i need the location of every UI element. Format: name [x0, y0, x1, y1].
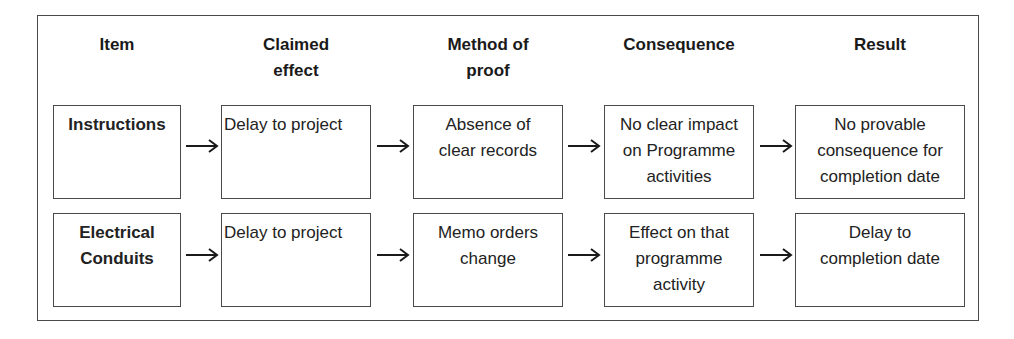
- row2-method-of-proof-box: Memo orders change: [413, 213, 563, 307]
- row2-consequence-line1: Effect on that: [605, 220, 753, 246]
- row2-method-line2: change: [414, 246, 562, 272]
- row2-result-box: Delay to completion date: [795, 213, 965, 307]
- row2-method-line1: Memo orders: [414, 220, 562, 246]
- header-result: Result: [795, 32, 965, 58]
- right-arrow-icon: [376, 248, 410, 262]
- right-arrow-icon: [567, 139, 601, 153]
- row2-item-line1: Electrical: [54, 220, 180, 246]
- header-result-text: Result: [795, 32, 965, 58]
- header-item-text: Item: [53, 32, 181, 58]
- right-arrow-icon: [759, 139, 793, 153]
- row1-method-line2: clear records: [414, 138, 562, 164]
- header-claimed-effect: Claimed effect: [221, 32, 371, 84]
- right-arrow-icon: [185, 248, 219, 262]
- row1-consequence-line2: on Programme: [605, 138, 753, 164]
- header-consequence: Consequence: [604, 32, 754, 58]
- row2-claimed-effect-text: Delay to project: [224, 220, 370, 246]
- row1-consequence-line1: No clear impact: [605, 112, 753, 138]
- row2-consequence-box: Effect on that programme activity: [604, 213, 754, 307]
- row2-result-line1: Delay to: [796, 220, 964, 246]
- right-arrow-icon: [759, 248, 793, 262]
- row1-claimed-effect-text: Delay to project: [224, 112, 370, 138]
- header-claimed-effect-line1: Claimed: [221, 32, 371, 58]
- right-arrow-icon: [185, 139, 219, 153]
- row1-method-of-proof-box: Absence of clear records: [413, 105, 563, 199]
- row1-consequence-box: No clear impact on Programme activities: [604, 105, 754, 199]
- header-consequence-text: Consequence: [604, 32, 754, 58]
- row1-item-box: Instructions: [53, 105, 181, 199]
- header-claimed-effect-line2: effect: [221, 58, 371, 84]
- row1-method-line1: Absence of: [414, 112, 562, 138]
- row2-item-line2: Conduits: [54, 246, 180, 272]
- header-method-line1: Method of: [413, 32, 563, 58]
- right-arrow-icon: [376, 139, 410, 153]
- row2-consequence-line3: activity: [605, 272, 753, 298]
- row1-claimed-effect-box: Delay to project: [221, 105, 371, 199]
- row2-consequence-line2: programme: [605, 246, 753, 272]
- row2-item-box: Electrical Conduits: [53, 213, 181, 307]
- header-item: Item: [53, 32, 181, 58]
- row1-result-line3: completion date: [796, 164, 964, 190]
- row1-item-text: Instructions: [54, 112, 180, 138]
- row1-result-line2: consequence for: [796, 138, 964, 164]
- row1-result-box: No provable consequence for completion d…: [795, 105, 965, 199]
- header-method-of-proof: Method of proof: [413, 32, 563, 84]
- right-arrow-icon: [567, 248, 601, 262]
- header-method-line2: proof: [413, 58, 563, 84]
- row2-claimed-effect-box: Delay to project: [221, 213, 371, 307]
- row2-result-line2: completion date: [796, 246, 964, 272]
- row1-consequence-line3: activities: [605, 164, 753, 190]
- row1-result-line1: No provable: [796, 112, 964, 138]
